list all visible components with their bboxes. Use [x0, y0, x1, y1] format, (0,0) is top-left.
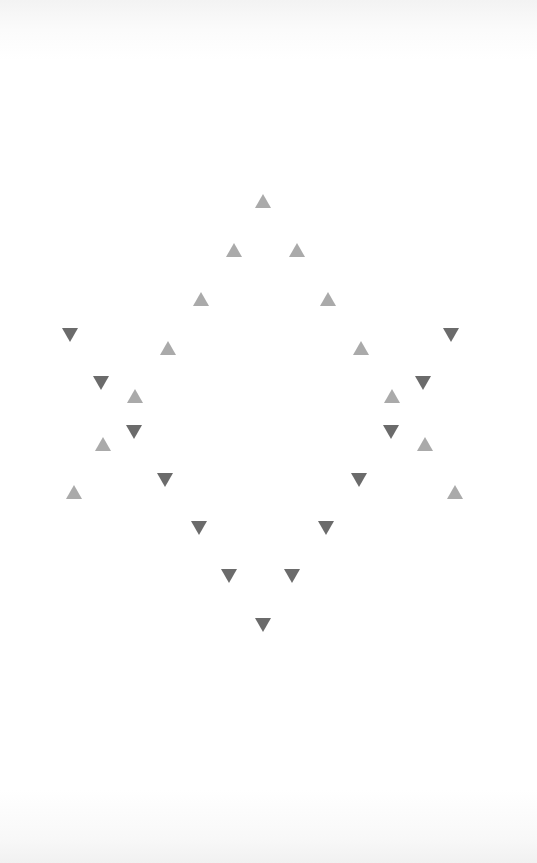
triangle-down-icon — [126, 425, 142, 439]
triangle-up-icon — [95, 437, 111, 451]
triangle-up-icon — [226, 243, 242, 257]
triangle-up-icon — [384, 389, 400, 403]
triangle-down-icon — [221, 569, 237, 583]
triangle-up-icon — [193, 292, 209, 306]
triangle-down-icon — [415, 376, 431, 390]
triangle-down-icon — [284, 569, 300, 583]
triangle-down-icon — [443, 328, 459, 342]
triangle-up-icon — [127, 389, 143, 403]
triangle-pattern-figure — [0, 0, 537, 863]
triangle-down-icon — [157, 473, 173, 487]
triangle-down-icon — [318, 521, 334, 535]
triangle-down-icon — [351, 473, 367, 487]
triangle-up-icon — [353, 341, 369, 355]
triangle-up-icon — [160, 341, 176, 355]
triangle-up-icon — [66, 485, 82, 499]
triangle-down-icon — [62, 328, 78, 342]
triangle-up-icon — [289, 243, 305, 257]
triangle-up-icon — [320, 292, 336, 306]
triangle-up-icon — [417, 437, 433, 451]
triangle-up-icon — [447, 485, 463, 499]
triangle-down-icon — [191, 521, 207, 535]
triangle-down-icon — [383, 425, 399, 439]
triangle-up-icon — [255, 194, 271, 208]
triangle-down-icon — [93, 376, 109, 390]
triangle-down-icon — [255, 618, 271, 632]
